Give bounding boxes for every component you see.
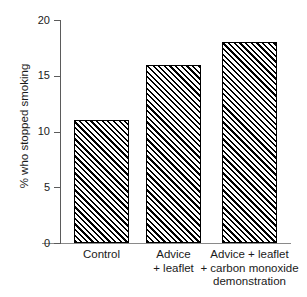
y-tick-label-wrap: 10 — [22, 126, 50, 137]
bar — [74, 120, 129, 243]
clipped-header-text: · · · · · · · · — [0, 0, 306, 4]
x-axis-label-line: demonstration — [192, 275, 307, 289]
y-tick-mark — [54, 132, 61, 133]
y-tick-label-wrap: 15 — [22, 70, 50, 81]
y-tick-label-wrap: 0 — [22, 238, 50, 249]
x-axis-line — [42, 243, 291, 244]
bar-chart: · · · · · · · · % who stopped smoking 05… — [0, 0, 306, 297]
y-tick-mark — [54, 187, 61, 188]
bar — [146, 65, 201, 243]
y-tick-label-wrap: 20 — [22, 15, 50, 26]
y-tick-mark — [54, 20, 61, 21]
bar — [222, 42, 277, 243]
y-tick-mark — [54, 243, 61, 244]
y-tick-label: 0 — [26, 238, 50, 249]
y-tick-label: 15 — [26, 70, 50, 81]
y-tick-label-wrap: 5 — [22, 182, 50, 193]
y-tick-label: 10 — [26, 126, 50, 137]
x-axis-label: Advice + leaflet+ carbon monoxidedemonst… — [192, 248, 307, 289]
x-axis-label-line: + carbon monoxide — [192, 262, 307, 276]
y-tick-label: 20 — [26, 15, 50, 26]
y-tick-mark — [54, 76, 61, 77]
y-tick-label: 5 — [26, 182, 50, 193]
x-axis-label-line: Advice + leaflet — [192, 248, 307, 262]
